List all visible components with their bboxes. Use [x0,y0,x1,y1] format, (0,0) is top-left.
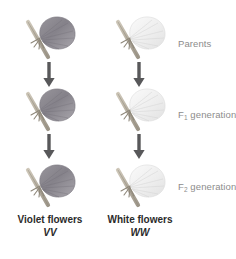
caption-white-genotype: WW [90,227,190,240]
inheritance-diagram: Parents [0,0,236,259]
violet-flower-f2 [18,160,80,210]
caption-violet-genotype: VV [0,227,100,240]
caption-violet: Violet flowers VV [0,214,100,239]
row-label-f2-subscript: 2 [184,186,188,193]
row-label-f2-rest: generation [188,181,236,192]
caption-violet-name: Violet flowers [0,214,100,227]
down-arrow-violet-2 [42,134,56,160]
row-label-f1: F1 generation [178,110,236,120]
white-flower-parents [108,12,170,62]
white-flower-f2 [108,160,170,210]
row-label-f1-subscript: 1 [184,114,188,121]
row-label-parents-text: Parents [178,38,211,49]
down-arrow-white-2 [132,134,146,160]
caption-white: White flowers WW [90,214,190,239]
row-label-f2: F2 generation [178,182,236,192]
row-label-parents: Parents [178,39,211,49]
violet-flower-parents [18,12,80,62]
violet-flower-f1 [18,84,80,134]
caption-white-name: White flowers [90,214,190,227]
white-flower-f1 [108,84,170,134]
row-label-f1-rest: generation [188,109,236,120]
